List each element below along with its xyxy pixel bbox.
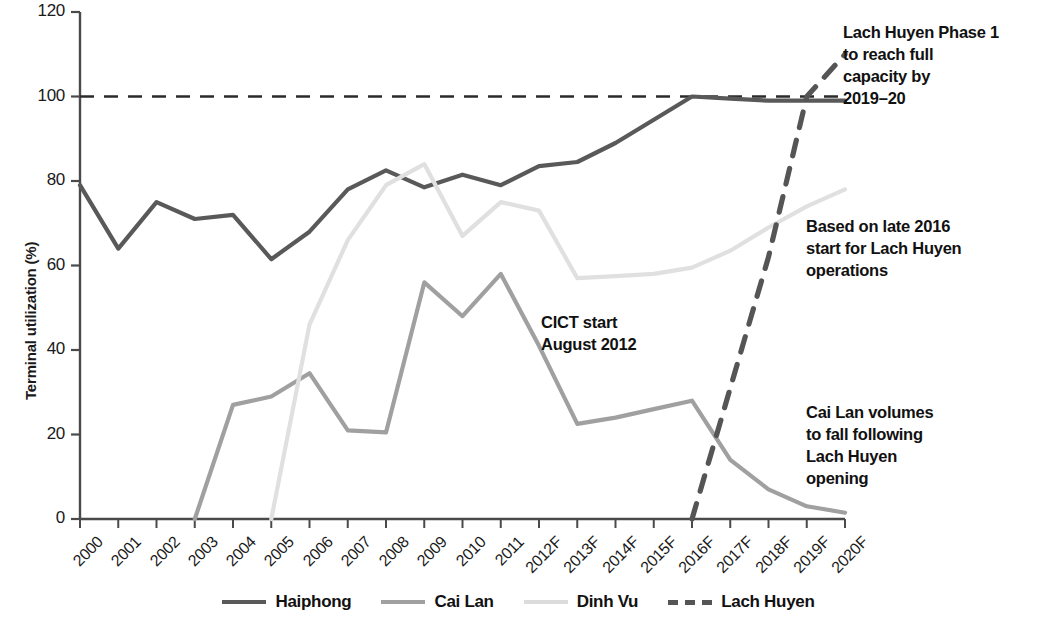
legend-swatch-icon bbox=[381, 600, 425, 604]
annotation-cict-start: CICT start August 2012 bbox=[541, 312, 636, 356]
legend-label: Lach Huyen bbox=[721, 592, 814, 612]
y-tick-label: 120 bbox=[19, 1, 65, 21]
annotation-line: Based on late 2016 bbox=[806, 216, 961, 238]
annotation-line: operations bbox=[806, 260, 961, 282]
y-tick-label: 100 bbox=[19, 86, 65, 106]
legend-label: Haiphong bbox=[275, 592, 351, 612]
annotation-lach-huyen-capacity: Lach Huyen Phase 1 to reach full capacit… bbox=[843, 22, 999, 110]
annotation-line: start for Lach Huyen bbox=[806, 238, 961, 260]
y-tick-label: 40 bbox=[19, 339, 65, 359]
annotation-line: to fall following bbox=[806, 424, 933, 446]
legend-swatch-icon bbox=[222, 600, 266, 604]
legend-item-haiphong[interactable]: Haiphong bbox=[222, 592, 351, 612]
annotation-line: to reach full bbox=[843, 44, 999, 66]
legend-item-cai-lan[interactable]: Cai Lan bbox=[381, 592, 493, 612]
legend-label: Cai Lan bbox=[434, 592, 493, 612]
annotation-line: Lach Huyen Phase 1 bbox=[843, 22, 999, 44]
annotation-line: CICT start bbox=[541, 312, 636, 334]
data-series bbox=[80, 54, 845, 519]
chart-container: Terminal utilization (%) 020406080100120… bbox=[0, 0, 1037, 620]
annotation-line: Cai Lan volumes bbox=[806, 402, 933, 424]
annotation-line: 2019–20 bbox=[843, 88, 999, 110]
annotation-line: capacity by bbox=[843, 66, 999, 88]
series-line-cai-lan bbox=[195, 274, 845, 519]
annotation-line: opening bbox=[806, 468, 933, 490]
y-tick-label: 80 bbox=[19, 170, 65, 190]
y-tick-label: 60 bbox=[19, 255, 65, 275]
chart-legend: HaiphongCai LanDinh VuLach Huyen bbox=[0, 592, 1037, 612]
legend-swatch-icon bbox=[668, 600, 712, 605]
annotation-line: Lach Huyen bbox=[806, 446, 933, 468]
y-tick-label: 0 bbox=[19, 508, 65, 528]
legend-item-dinh-vu[interactable]: Dinh Vu bbox=[524, 592, 638, 612]
legend-swatch-icon bbox=[524, 600, 568, 604]
annotation-lach-huyen-start: Based on late 2016 start for Lach Huyen … bbox=[806, 216, 961, 282]
legend-item-lach-huyen[interactable]: Lach Huyen bbox=[668, 592, 814, 612]
annotation-line: August 2012 bbox=[541, 334, 636, 356]
legend-label: Dinh Vu bbox=[577, 592, 638, 612]
y-tick-label: 20 bbox=[19, 424, 65, 444]
axis-lines bbox=[71, 12, 845, 528]
annotation-cai-lan-decline: Cai Lan volumes to fall following Lach H… bbox=[806, 402, 933, 490]
